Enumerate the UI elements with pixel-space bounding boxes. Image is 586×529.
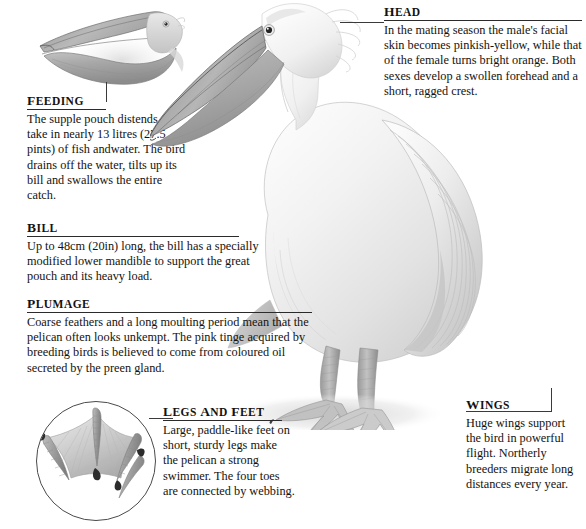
callout-plumage-body: Coarse feathers and a long moulting peri… — [27, 315, 327, 376]
callout-legs-and-feet-heading: LEGS AND FEET — [163, 406, 295, 420]
callout-plumage-rule — [27, 312, 312, 313]
callout-head-body: In the mating season the male's facial s… — [384, 23, 582, 99]
foot-inset-circle — [36, 401, 156, 521]
callout-wings-body: Huge wings support the bird in powerful … — [466, 416, 578, 492]
callout-head: HEAD In the mating season the male's fac… — [384, 6, 582, 99]
pelican-anatomy-plate: FEEDING The supple pouch distends to tak… — [0, 0, 586, 529]
head-leader-horizontal — [340, 22, 384, 23]
callout-wings: WINGS Huge wings support the bird in pow… — [466, 399, 578, 492]
callout-bill-rule — [27, 236, 239, 237]
callout-legs-and-feet-rule — [163, 420, 282, 421]
callout-bill: BILL Up to 48cm (20in) long, the bill ha… — [27, 222, 277, 285]
callout-plumage: PLUMAGE Coarse feathers and a long moult… — [27, 298, 327, 376]
callout-legs-and-feet: LEGS AND FEET Large, paddle-like feet on… — [163, 406, 295, 499]
callout-wings-heading: WINGS — [466, 399, 578, 413]
callout-legs-and-feet-body: Large, paddle-like feet on short, sturdy… — [163, 423, 295, 499]
callout-bill-body: Up to 48cm (20in) long, the bill has a s… — [27, 239, 277, 285]
callout-head-rule — [384, 20, 582, 21]
callout-bill-heading: BILL — [27, 222, 277, 236]
callout-head-heading: HEAD — [384, 6, 582, 20]
callout-plumage-heading: PLUMAGE — [27, 298, 327, 312]
callout-feeding-rule — [27, 109, 106, 110]
